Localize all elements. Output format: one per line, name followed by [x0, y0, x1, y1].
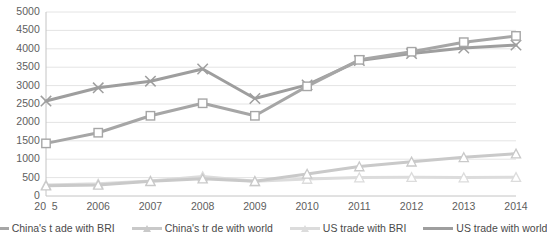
data-point-marker	[198, 99, 206, 107]
legend-marker	[143, 225, 151, 232]
legend-item[interactable]: US trade with world	[423, 223, 547, 234]
data-point-marker	[146, 112, 154, 120]
data-point-marker	[94, 129, 102, 137]
legend-label: US trade with world	[456, 223, 547, 234]
legend-line	[0, 227, 9, 230]
series-line	[46, 36, 516, 143]
chart-series	[41, 172, 520, 189]
chart-legend: China's t ade with BRIChina's tr de with…	[0, 218, 526, 238]
legend-swatch	[0, 223, 9, 233]
legend-item[interactable]: China's t ade with BRI	[0, 223, 115, 234]
data-point-marker	[251, 112, 259, 120]
chart-series	[41, 149, 520, 190]
legend-item[interactable]: China's tr de with world	[132, 223, 273, 234]
data-point-marker	[512, 32, 520, 40]
data-point-marker	[303, 82, 311, 90]
legend-item[interactable]: US trade with BRI	[290, 223, 406, 234]
legend-swatch	[132, 223, 162, 233]
legend-label: US trade with BRI	[323, 223, 406, 234]
legend-label: China's t ade with BRI	[12, 223, 115, 234]
data-point-marker	[355, 56, 363, 64]
legend-swatch	[423, 223, 453, 233]
legend-marker	[434, 225, 441, 232]
data-point-marker	[460, 38, 468, 46]
series-line	[46, 45, 516, 101]
gridlines	[46, 12, 516, 196]
data-point-marker	[407, 48, 415, 56]
legend-swatch	[290, 223, 320, 233]
legend-marker	[301, 225, 309, 232]
chart-series	[41, 40, 521, 106]
data-point-marker	[42, 139, 50, 147]
legend-label: China's tr de with world	[165, 223, 273, 234]
